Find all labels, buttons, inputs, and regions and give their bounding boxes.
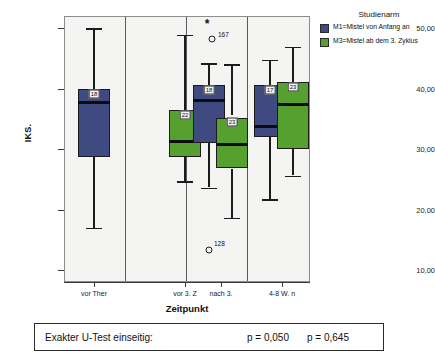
whisker-cap-upper-g4-blue [262,60,278,62]
median-g4-green [277,103,309,106]
x-tick-mark-4 [282,282,283,287]
whisker-cap-upper-g2-green [177,35,193,37]
extreme-value-star-marker: * [205,18,210,30]
legend: Studienarm M1=Mistel von Anfang an M3=Mi… [320,10,432,51]
whisker-lower-g3-blue [208,143,210,187]
box-g1-blue [78,89,110,157]
box-count-label-g3-green: 23 [227,118,238,127]
whisker-upper-g1-blue [93,28,95,89]
boxplot-figure: IKS. 50,00 40,00 30,00 20,00 10,00 18 22… [0,0,435,359]
statistical-test-box: Exakter U-Test einseitig: p = 0,050 p = … [34,323,384,351]
box-count-label-g4-green: 23 [288,83,299,92]
legend-label-m1: M1=Mistel von Anfang an [333,23,410,31]
x-tick-mark-2 [185,282,186,287]
whisker-cap-upper-g4-green [285,47,301,49]
outlier-label-top: 167 [218,31,229,38]
whisker-lower-g4-blue [269,137,271,200]
y-tick-label-40: 40,00 [383,84,435,93]
p-value-1: p = 0,050 [247,332,289,343]
whisker-cap-lower-g3-blue [201,188,217,190]
y-tick-label-20: 20,00 [383,205,435,214]
legend-swatch-m1-icon [320,24,329,33]
u-test-label: Exakter U-Test einseitig: [45,332,153,343]
whisker-cap-lower-g4-green [285,176,301,178]
x-axis-line [64,282,310,283]
legend-swatch-m3-icon [320,38,329,47]
x-tick-label-2: vor 3. Z [173,290,197,297]
y-tick-mark-10 [58,270,64,271]
panel-separator-1 [125,17,126,281]
box-g4-green [277,82,309,149]
whisker-lower-g3-green [231,169,233,218]
outlier-point-top [209,36,216,43]
whisker-cap-upper-g3-green [224,64,240,66]
whisker-upper-g4-blue [269,60,271,85]
median-g3-green [216,143,248,146]
x-tick-mark-1 [94,282,95,287]
x-axis-title: Zeitpunkt [64,303,310,314]
whisker-upper-g3-green [231,64,233,115]
y-tick-label-10: 10,00 [383,266,435,275]
y-tick-mark-40 [58,89,64,90]
whisker-cap-lower-g3-green [224,218,240,220]
whisker-cap-upper-g1-blue [86,28,102,30]
whisker-lower-g1-blue [93,157,95,228]
box-count-label-g3-blue: 18 [204,86,215,95]
box-count-label-g1-blue: 18 [89,90,100,99]
whisker-cap-lower-g2-green [177,181,193,183]
box-count-label-g2-green: 22 [180,111,191,120]
x-tick-label-4: 4-8 W. n [269,290,295,297]
whisker-lower-g4-green [292,149,294,176]
x-tick-mark-3 [221,282,222,287]
y-tick-mark-50 [58,28,64,29]
x-tick-label-3: nach 3. [210,290,233,297]
whisker-upper-g4-green [292,47,294,83]
y-tick-label-30: 30,00 [383,145,435,154]
outlier-label-bottom: 128 [214,240,225,247]
legend-item-m3: M3=Mistel ab dem 3. Zyklus [320,37,432,47]
whisker-cap-lower-g4-blue [262,199,278,201]
legend-label-m3: M3=Mistel ab dem 3. Zyklus [333,37,418,45]
y-tick-mark-20 [58,210,64,211]
whisker-upper-g2-green [184,35,186,110]
whisker-cap-lower-g1-blue [86,228,102,230]
legend-title: Studienarm [326,10,432,19]
legend-item-m1: M1=Mistel von Anfang an [320,23,432,33]
p-value-2: p = 0,645 [307,332,349,343]
x-tick-label-1: vor Ther [81,290,107,297]
median-g1-blue [78,101,110,104]
whisker-lower-g2-green [184,157,186,182]
outlier-point-bottom [206,247,213,254]
y-axis-title: IKS. [23,103,33,163]
y-tick-mark-30 [58,149,64,150]
box-count-label-g4-blue: 17 [265,86,276,95]
whisker-cap-upper-g3-blue [201,63,217,65]
median-g3-blue [193,99,225,102]
